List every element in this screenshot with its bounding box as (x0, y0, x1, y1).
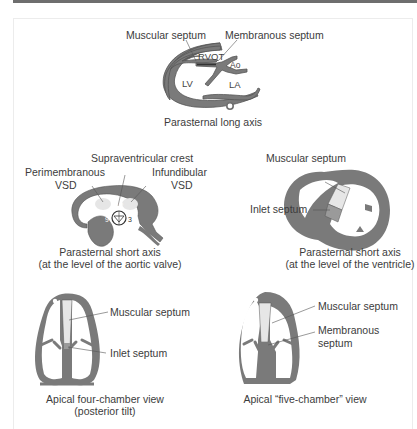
psax-aortic-diagram (72, 185, 163, 246)
psax-label-supraventricular-crest: Supraventricular crest (91, 152, 193, 165)
psax-clock-9: 9 (105, 213, 109, 226)
a5c-label-membranous-septum: septum (318, 337, 352, 350)
psax-label-perimembranous: Perimembranous (25, 166, 105, 179)
plax-label-muscular-septum: Muscular septum (126, 29, 206, 42)
psax-label-infundibular: Infundibular (152, 166, 207, 179)
plax-caption: Parasternal long axis (158, 116, 268, 129)
psax-clock-12: 12 (115, 199, 123, 212)
a5c-label-muscular-septum: Muscular septum (318, 300, 398, 313)
plax-label-membranous-septum: Membranous septum (225, 29, 324, 42)
psax-v-label-inlet-septum: Inlet septum (250, 203, 307, 216)
a5c-diagram (239, 292, 300, 384)
a4c-label-inlet-septum: Inlet septum (110, 347, 167, 360)
a5c-label-membranous: Membranous (318, 324, 379, 337)
plax-label-la: LA (229, 78, 241, 91)
psax-v-label-muscular-septum: Muscular septum (266, 152, 346, 165)
psax-label-perimembranous-vsd: VSD (55, 179, 77, 192)
a4c-label-muscular-septum: Muscular septum (110, 306, 190, 319)
psax-label-infundibular-vsd: VSD (171, 179, 193, 192)
plax-label-rvot: RVOT (198, 50, 224, 63)
a4c-diagram (35, 294, 100, 386)
psax-clock-3: 3 (128, 213, 132, 226)
a4c-caption-2: (posterior tilt) (55, 405, 155, 418)
plax-label-lv: LV (182, 77, 193, 90)
plax-label-ao: Ao (230, 59, 240, 72)
psax-v-caption-2: (at the level of the ventricle) (275, 258, 417, 271)
psax-aortic-caption-2: (at the level of the aortic valve) (20, 258, 200, 271)
a5c-caption: Apical “five-chamber” view (235, 393, 375, 406)
